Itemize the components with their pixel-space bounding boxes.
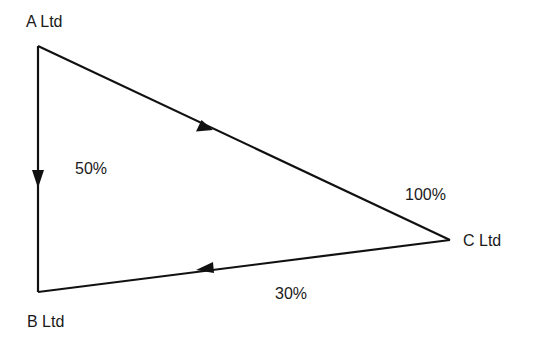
node-b-label: B Ltd	[27, 314, 64, 330]
edge-a-to-c-label: 100%	[405, 187, 446, 203]
node-a-label: A Ltd	[26, 14, 62, 30]
edge-c-to-b	[38, 240, 450, 292]
edge-a-to-b-label: 50%	[75, 161, 107, 177]
edge-a-to-c	[38, 46, 450, 240]
arrow-a-to-b-icon	[32, 170, 44, 188]
node-c-label: C Ltd	[463, 233, 501, 249]
edge-c-to-b-label: 30%	[275, 286, 307, 302]
